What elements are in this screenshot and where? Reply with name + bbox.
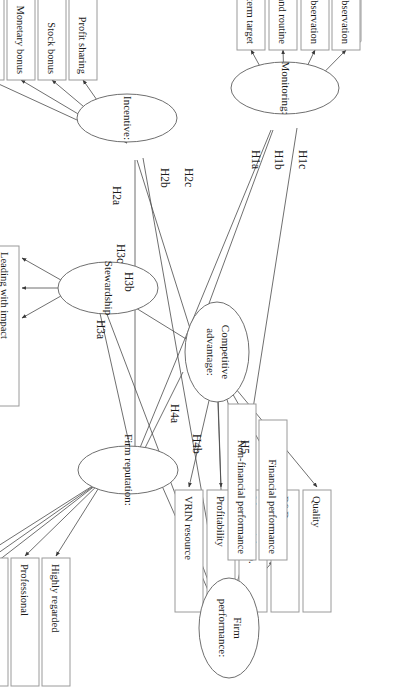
indicator-label: Systematic and routine <box>277 0 288 44</box>
construct-firm-performance: Firm performance: <box>199 578 259 678</box>
monitoring-indicator-boxes: Direct observation Indirect observation … <box>237 0 360 50</box>
hypothesis-label-h1b: H1b <box>273 150 285 170</box>
figure-canvas: Direct observation Indirect observation … <box>0 0 393 694</box>
indicator-label: Leading with impact <box>0 252 10 339</box>
construct-label-line1: Competitive <box>220 325 232 380</box>
construct-label-line1: Firm <box>232 617 244 639</box>
rotated-diagram-wrapper: Direct observation Indirect observation … <box>0 0 393 694</box>
construct-competitive-advantage: Competitive advantage: <box>185 302 249 402</box>
indicator-label: Indirect observation <box>309 0 320 45</box>
hypothesis-label-h4a: H4a <box>169 404 181 423</box>
indicator-label: VRIN resource <box>183 496 194 560</box>
indicator-label: Direct observation <box>340 0 351 45</box>
hypothesis-label-h3c: H3c <box>115 244 127 263</box>
hypothesis-label-h2a: H2a <box>111 186 123 205</box>
indicator-label: Profitability <box>215 496 226 547</box>
path-diagram-svg: Direct observation Indirect observation … <box>0 0 393 694</box>
hypothesis-label-h3a: H3a <box>95 320 107 339</box>
hypothesis-label-h2b: H2b <box>159 168 171 188</box>
indicator-label: Non-financial performance <box>236 440 247 554</box>
construct-stewardship: Stewardship <box>58 261 158 316</box>
stewardship-indicator-boxes: Leading with impact <box>0 246 19 436</box>
indicator-box-doing-good-things <box>0 558 8 686</box>
construct-firm-reputation: Firm reputation: <box>78 434 178 506</box>
hypothesis-label-h1a: H1a <box>250 150 262 169</box>
construct-label-line2: performance: <box>217 599 229 658</box>
hypothesis-label-h4b: H4b <box>191 434 203 454</box>
hypothesis-label-h5: H5 <box>239 440 251 454</box>
construct-label: Stewardship <box>103 261 115 316</box>
hypothesis-label-h2c: H2c <box>183 168 195 187</box>
hypothesis-label-h1c: H1c <box>297 150 309 169</box>
indicator-label: Quality <box>311 496 322 528</box>
construct-incentive: Incentive: <box>77 94 177 142</box>
indicator-label: Based on long-term target <box>245 0 256 44</box>
indicator-box-systematic <box>0 0 4 80</box>
indicator-label: Highly regarded <box>50 564 61 633</box>
indicator-label: Financial performance <box>267 459 278 554</box>
construct-label: Incentive: <box>122 96 134 140</box>
construct-monitoring: Monitoring: <box>231 61 339 114</box>
construct-label: Firm reputation: <box>123 434 135 506</box>
indicator-label: Stock bonus <box>46 22 57 74</box>
construct-label-line2: advantage: <box>205 328 217 376</box>
incentive-indicator-boxes: Profit sharing Stock bonus Monetary bonu… <box>0 0 97 80</box>
indicator-label: Profit sharing <box>77 17 88 75</box>
hypothesis-label-h3b: H3b <box>123 272 135 292</box>
firm-reputation-indicator-boxes: Highly regarded Professional Doing good … <box>0 558 70 686</box>
indicator-label: Monetary bonus <box>15 5 26 74</box>
indicator-label: Professional <box>19 564 30 616</box>
construct-label: Monitoring: <box>280 61 292 114</box>
